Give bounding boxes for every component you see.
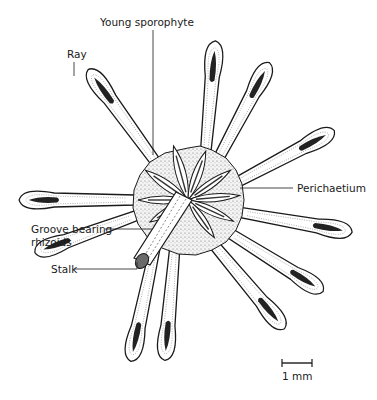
label-young-sporophyte: Young sporophyte	[100, 16, 194, 28]
ray	[236, 203, 353, 241]
label-groove-bearing: Groove bearing	[31, 223, 112, 235]
diagram-drawing	[0, 0, 377, 400]
label-perichaetium: Perichaetium	[297, 182, 366, 194]
thallus-diagram: Young sporophyte Ray Perichaetium Groove…	[0, 0, 377, 400]
ray	[223, 224, 328, 299]
scale-bar	[282, 359, 312, 367]
label-rhizoids: rhizoids	[31, 236, 72, 248]
label-stalk: Stalk	[51, 263, 77, 275]
scale-bar-label: 1 mm	[282, 370, 312, 382]
ray	[156, 244, 184, 361]
stalk-leader	[74, 262, 137, 269]
label-ray: Ray	[67, 48, 87, 60]
ray	[81, 64, 167, 173]
ray	[19, 191, 135, 209]
